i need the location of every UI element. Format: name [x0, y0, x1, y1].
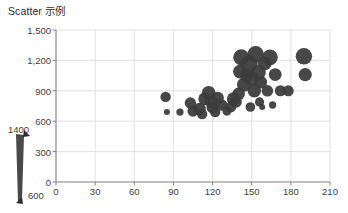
x-tick-label: 0 — [53, 186, 58, 197]
legend-min-label: 600 — [28, 190, 44, 201]
x-tick-label: 60 — [129, 186, 140, 197]
y-tick-label: 1,200 — [27, 55, 51, 66]
x-tick-label: 90 — [168, 186, 179, 197]
x-axis-tick-labels: 0306090120150180210 — [56, 186, 330, 200]
plot-area — [56, 30, 330, 182]
y-tick-label: 900 — [35, 85, 51, 96]
x-tick-label: 180 — [283, 186, 299, 197]
legend-max-label: 1400 — [8, 124, 29, 135]
y-tick-label: 1,500 — [27, 25, 51, 36]
chart-root: Scatter 示例 03006009001,2001,500 03060901… — [0, 0, 348, 213]
x-tick-label: 30 — [90, 186, 101, 197]
x-tick-label: 210 — [322, 186, 338, 197]
chart-title: Scatter 示例 — [8, 3, 65, 18]
x-tick-label: 150 — [244, 186, 260, 197]
bubble-size-legend: 1400 600 — [2, 124, 54, 208]
x-tick-label: 120 — [205, 186, 221, 197]
scatter-points-layer — [56, 30, 330, 182]
